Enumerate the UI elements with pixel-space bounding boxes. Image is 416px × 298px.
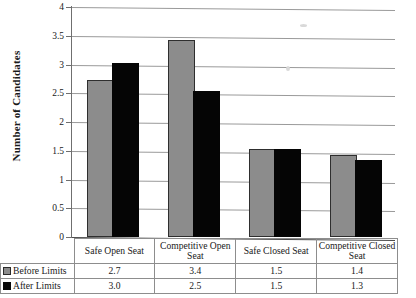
y-axis-tick [66, 65, 72, 66]
category-header-3: Competitive Closed Seat [317, 239, 398, 264]
y-axis-tick [66, 36, 72, 37]
cell-before-2: 1.5 [236, 264, 317, 279]
category-header-2: Safe Closed Seat [236, 239, 317, 264]
category-header-0: Safe Open Seat [74, 239, 155, 264]
y-axis-tick-label: 3.5 [33, 31, 64, 41]
bar-before-limits-2 [249, 149, 276, 237]
y-axis-tick [66, 122, 72, 123]
y-axis-tick [66, 208, 72, 209]
y-axis-tick [66, 93, 72, 94]
y-axis-tick-label: 2 [33, 117, 64, 127]
bar-after-limits-3 [355, 160, 382, 237]
cell-before-1: 3.4 [155, 264, 236, 279]
black-square-icon [3, 282, 11, 290]
y-axis-tick-label: 2.5 [33, 88, 64, 98]
table-row-categories: Safe Open Seat Competitive Open Seat Saf… [1, 239, 398, 264]
bar-before-limits-1 [168, 40, 195, 238]
y-axis-tick [66, 7, 72, 8]
bar-chart-figure: Number of Candidates 43.532.521.510.50 S… [0, 0, 416, 298]
category-header-1: Competitive Open Seat [155, 239, 236, 264]
legend-item-after-limits: After Limits [1, 279, 75, 294]
y-axis-tick-label: 4 [33, 2, 64, 12]
legend-label-after-limits: After Limits [13, 280, 61, 291]
gridline [71, 36, 395, 40]
cell-after-1: 2.5 [155, 279, 236, 294]
y-axis-tick-label: 3 [33, 60, 64, 70]
legend-label-before-limits: Before Limits [13, 265, 67, 276]
cell-before-0: 2.7 [74, 264, 155, 279]
cell-after-2: 1.5 [236, 279, 317, 294]
plot-area: 43.532.521.510.50 [71, 7, 395, 237]
bar-after-limits-2 [274, 149, 301, 237]
legend-spacer-cell [1, 239, 75, 264]
scan-speckle [300, 24, 307, 27]
bar-after-limits-1 [193, 91, 220, 237]
gridline [71, 7, 395, 11]
y-axis-tick [66, 151, 72, 152]
legend-item-before-limits: Before Limits [1, 264, 75, 279]
table-row: After Limits 3.0 2.5 1.5 1.3 [1, 279, 398, 294]
y-axis-tick-label: 1 [33, 175, 64, 185]
table-row: Before Limits 2.7 3.4 1.5 1.4 [1, 264, 398, 279]
y-axis-tick-label: 1.5 [33, 146, 64, 156]
y-axis-tick [66, 180, 72, 181]
bar-before-limits-0 [87, 80, 114, 237]
y-axis-tick-label: 0.5 [33, 203, 64, 213]
bar-after-limits-0 [112, 63, 139, 238]
y-axis-title: Number of Candidates [10, 26, 22, 186]
gray-square-icon [3, 267, 11, 275]
cell-before-3: 1.4 [317, 264, 398, 279]
cell-after-0: 3.0 [74, 279, 155, 294]
data-table: Safe Open Seat Competitive Open Seat Saf… [0, 238, 398, 296]
bar-before-limits-3 [330, 155, 357, 238]
cell-after-3: 1.3 [317, 279, 398, 294]
scan-speckle [286, 66, 290, 71]
